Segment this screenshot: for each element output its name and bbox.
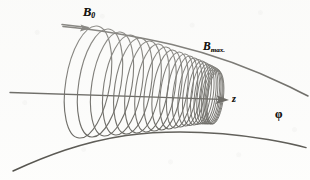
upper-field-line-curve [63,27,308,97]
helix-turn [96,33,149,136]
lower-field-line-curve [13,132,306,171]
label-phi-symbol: φ [275,107,283,121]
label-bmax: Bmax. [203,41,225,54]
figure-root: B0 Bmax. z φ [0,0,310,180]
label-z-axis: z [232,94,236,104]
helix-turn [57,24,119,140]
helix-loops [57,24,226,140]
helix-turn [84,30,140,138]
diagram-canvas [0,0,310,180]
label-b0-subscript: 0 [91,11,95,20]
helix-turn [108,36,159,135]
label-phi-axis: φ [275,108,283,120]
label-b0: B0 [83,6,95,20]
label-bmax-subscript: max. [211,46,225,54]
label-bmax-symbol: B [203,40,211,52]
label-z-symbol: z [232,93,236,104]
helix-turn [168,55,201,128]
